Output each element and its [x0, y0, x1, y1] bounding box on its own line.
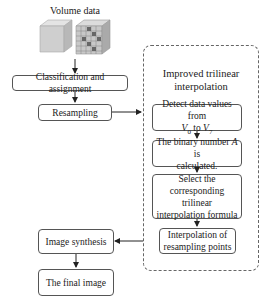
volume-data-label: Volume data	[20, 5, 130, 16]
binary-line2: calculated.	[177, 160, 218, 172]
subprocess-title-line2: interpolation	[143, 80, 259, 93]
detect-text: Detect data values from	[156, 98, 238, 122]
interpolation-line2: resampling points	[164, 241, 232, 253]
classification-step: Classification and assignment	[12, 75, 128, 91]
v-end-sub: 7	[209, 127, 213, 135]
final-image-step: The final image	[38, 269, 114, 296]
select-line1: Select the	[178, 173, 215, 185]
subprocess-title-line1: Improved trilinear	[143, 67, 259, 80]
select-line2: corresponding trilinear	[156, 185, 238, 209]
resampling-step: Resampling	[38, 104, 112, 121]
binary-number-step: The binary number A is calculated.	[152, 140, 242, 167]
interpolation-line1: Interpolation of	[168, 229, 227, 241]
select-formula-step: Select the corresponding trilinear inter…	[152, 174, 242, 219]
subprocess-title: Improved trilinear interpolation	[143, 67, 259, 93]
v-start-sub: 0	[187, 127, 191, 135]
volume-cubes-icon	[38, 18, 118, 58]
detect-data-values-step: Detect data values from V0 to V7	[152, 104, 242, 131]
image-synthesis-step: Image synthesis	[38, 229, 114, 254]
interpolation-step: Interpolation of resampling points	[159, 228, 236, 254]
to-word: to	[193, 123, 200, 133]
binary-line1: The binary number A is	[156, 136, 238, 160]
binary-suffix: is	[194, 149, 200, 159]
select-line3: interpolation formula	[157, 209, 238, 221]
binary-prefix: The binary number	[157, 137, 230, 147]
binary-var: A	[232, 137, 238, 147]
